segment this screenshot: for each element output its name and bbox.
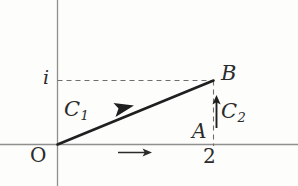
complex-plane-contour-figure: i C1 B C2 A O 2	[0, 0, 298, 186]
point-a-label: A	[192, 121, 206, 141]
contour-c2-label-subscript: 2	[238, 110, 246, 125]
imaginary-tick-label: i	[43, 68, 49, 87]
contour-c1-label-base: C	[64, 97, 80, 121]
contour-c2-label: C2	[221, 101, 246, 124]
real-tick-label: 2	[203, 146, 216, 166]
contour-c2-label-base: C	[221, 99, 237, 123]
origin-label: O	[30, 145, 46, 165]
point-b-label: B	[221, 63, 236, 84]
contour-c1-label-subscript: 1	[81, 108, 89, 123]
contour-c1-label: C1	[64, 99, 89, 122]
